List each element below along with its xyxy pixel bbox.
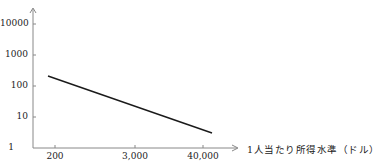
x-tick-label-40000: 40,000 <box>183 151 223 161</box>
y-tick-label-1: 1 <box>0 142 14 152</box>
y-tick-label-100: 100 <box>0 80 28 90</box>
y-tick-label-1000: 1000 <box>0 49 28 59</box>
data-line <box>48 76 212 133</box>
y-tick-label-10: 10 <box>0 111 28 121</box>
x-axis-label: 1人当たり所得水準（ドル） <box>247 142 377 156</box>
x-tick-label-3000: 3,000 <box>115 151 155 161</box>
x-tick-label-200: 200 <box>35 151 75 161</box>
y-tick-label-10000: 10000 <box>0 18 28 28</box>
